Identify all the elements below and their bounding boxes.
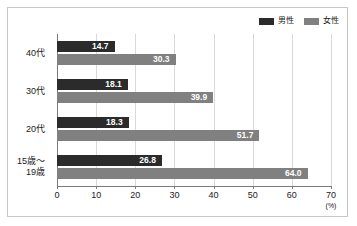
bar-value-label: 18.3 <box>106 118 129 127</box>
x-axis-tick <box>214 186 215 189</box>
bar-male[interactable]: 14.7 <box>57 41 115 52</box>
category-label-line: 15歳～ <box>17 156 45 167</box>
x-axis-tick <box>57 186 58 189</box>
x-axis-tick-label: 70 <box>326 191 336 200</box>
legend-item-female[interactable]: 女性 <box>304 17 339 25</box>
x-axis-tick-label: 40 <box>209 191 219 200</box>
bar-group: 26.864.0 <box>57 155 331 179</box>
x-axis-tick-label: 20 <box>130 191 140 200</box>
category-label-line: 40代 <box>26 48 45 59</box>
bar-female[interactable]: 39.9 <box>57 92 213 103</box>
legend-swatch-male <box>259 18 274 25</box>
x-axis-tick-label: 50 <box>248 191 258 200</box>
bar-value-label: 39.9 <box>191 93 214 102</box>
bar-value-label: 26.8 <box>139 156 162 165</box>
x-axis-tick <box>96 186 97 189</box>
bar-value-label: 30.3 <box>153 55 176 64</box>
bar-female[interactable]: 51.7 <box>57 130 259 141</box>
legend-label-female: 女性 <box>323 17 339 25</box>
bar-male[interactable]: 18.3 <box>57 117 129 128</box>
category-label-line: 20代 <box>26 124 45 135</box>
gridline <box>331 34 332 186</box>
category-label: 20代 <box>26 124 45 135</box>
legend-item-male[interactable]: 男性 <box>259 17 294 25</box>
x-axis-tick <box>253 186 254 189</box>
bar-female[interactable]: 30.3 <box>57 54 176 65</box>
bar-male[interactable]: 18.1 <box>57 79 128 90</box>
bar-male[interactable]: 26.8 <box>57 155 162 166</box>
x-axis-line <box>57 186 332 187</box>
x-axis-tick-label: 0 <box>54 191 59 200</box>
x-axis-tick <box>292 186 293 189</box>
x-axis-tick <box>174 186 175 189</box>
chart-legend: 男性 女性 <box>259 17 339 25</box>
category-label: 30代 <box>26 86 45 97</box>
x-axis-tick <box>331 186 332 189</box>
x-axis-tick-label: 60 <box>287 191 297 200</box>
bar-value-label: 51.7 <box>237 131 260 140</box>
category-label: 40代 <box>26 48 45 59</box>
bar-value-label: 14.7 <box>92 42 115 51</box>
x-axis-tick-label: 30 <box>169 191 179 200</box>
category-label: 15歳～19歳 <box>17 156 45 178</box>
bar-value-label: 64.0 <box>285 169 308 178</box>
bar-female[interactable]: 64.0 <box>57 168 308 179</box>
bar-group: 18.351.7 <box>57 117 331 141</box>
chart-frame: 男性 女性 14.730.318.139.918.351.726.864.0 4… <box>7 7 348 217</box>
plot-area: 14.730.318.139.918.351.726.864.0 <box>57 34 331 186</box>
legend-swatch-female <box>304 18 319 25</box>
bar-group: 14.730.3 <box>57 41 331 65</box>
x-axis-unit-label: (%) <box>326 202 337 209</box>
category-label-line: 19歳 <box>17 167 45 178</box>
bar-value-label: 18.1 <box>105 80 128 89</box>
category-label-line: 30代 <box>26 86 45 97</box>
legend-label-male: 男性 <box>278 17 294 25</box>
x-axis-tick <box>135 186 136 189</box>
bar-group: 18.139.9 <box>57 79 331 103</box>
x-axis-tick-label: 10 <box>91 191 101 200</box>
